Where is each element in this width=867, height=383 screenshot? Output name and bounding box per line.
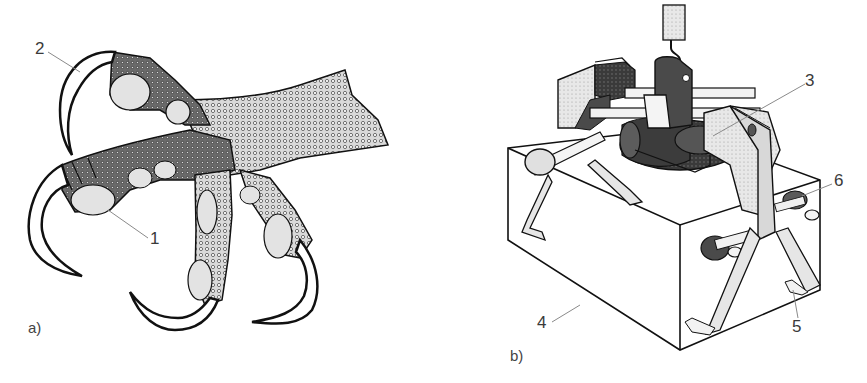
lifting-hook bbox=[644, 5, 692, 128]
right-toe-pad bbox=[264, 214, 292, 258]
panel-b-gripper: 3 6 4 5 b) bbox=[430, 0, 867, 383]
upper-toe-pad-2 bbox=[166, 100, 190, 124]
right-toe-pad-2 bbox=[240, 186, 260, 204]
claw-upper bbox=[60, 52, 115, 155]
callout-1: 1 bbox=[150, 230, 159, 247]
leader-line-2 bbox=[48, 52, 80, 72]
left-toe-pad-2 bbox=[128, 168, 152, 188]
callout-6: 6 bbox=[834, 172, 843, 189]
leader-line-1 bbox=[108, 210, 148, 238]
callout-5: 5 bbox=[792, 318, 801, 335]
left-housing bbox=[558, 58, 635, 130]
panel-label-b: b) bbox=[510, 348, 523, 363]
callout-4: 4 bbox=[537, 314, 546, 331]
panel-label-a: a) bbox=[28, 320, 41, 335]
callout-2: 2 bbox=[35, 40, 44, 57]
middle-toe-pad bbox=[197, 190, 217, 234]
panel-a-talon: 2 1 a) bbox=[0, 0, 430, 383]
middle-toe-pad-2 bbox=[188, 260, 212, 300]
talon-drawing bbox=[0, 0, 430, 383]
upper-toe-pad bbox=[110, 74, 150, 110]
callout-3: 3 bbox=[805, 72, 814, 89]
left-pivot-wheel bbox=[525, 149, 555, 175]
left-toe-pad-3 bbox=[154, 161, 176, 179]
leader-line-4 bbox=[552, 305, 580, 322]
